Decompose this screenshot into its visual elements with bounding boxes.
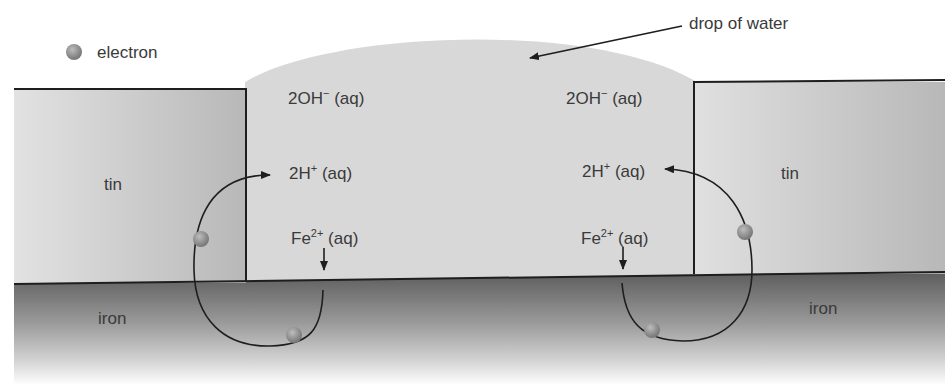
drop-of-water-label: drop of water	[689, 15, 788, 32]
tin-right-label: tin	[781, 165, 799, 182]
hydrogen-ion-left-label: 2H+ (aq)	[289, 165, 352, 182]
legend-electron-label: electron	[97, 44, 157, 61]
tin-left-block	[14, 89, 246, 283]
hydroxide-left-label: 2OH− (aq)	[288, 90, 364, 107]
electron-legend-icon	[66, 44, 82, 60]
iron-ion-right-label: Fe2+ (aq)	[581, 230, 648, 247]
hydroxide-right-label: 2OH− (aq)	[566, 90, 642, 107]
iron-right-label: iron	[809, 300, 837, 317]
electron-right-tin	[737, 224, 753, 240]
electron-left-iron	[286, 327, 302, 343]
electron-right-iron	[644, 322, 660, 338]
tin-left-label: tin	[104, 176, 122, 193]
hydrogen-ion-right-label: 2H+ (aq)	[582, 163, 645, 180]
iron-base	[14, 272, 945, 385]
electron-left-tin	[193, 231, 209, 247]
corrosion-diagram: electron drop of water tin tin iron iron…	[0, 0, 949, 385]
iron-ion-left-label: Fe2+ (aq)	[291, 230, 358, 247]
iron-left-label: iron	[98, 310, 126, 327]
tin-right-block	[694, 82, 945, 274]
